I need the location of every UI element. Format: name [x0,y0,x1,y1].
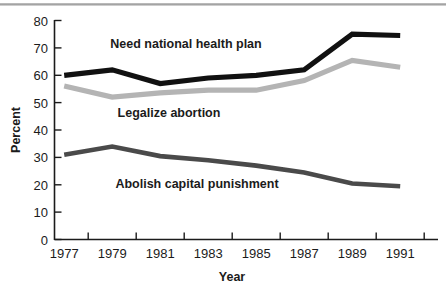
y-tick-label: 60 [34,68,48,83]
line-chart-figure: 80 70 60 50 40 30 20 10 0 1977 1979 1981… [0,0,446,295]
x-tick-label: 1985 [242,246,271,261]
y-tick-label: 20 [34,178,48,193]
y-tick-label: 0 [41,233,48,248]
y-tick-label: 10 [34,205,48,220]
series-annotation-capital-punishment: Abolish capital punishment [115,177,279,191]
x-tick-label: 1991 [386,246,415,261]
y-axis-tick-labels: 80 70 60 50 40 30 20 10 0 [34,14,48,248]
chart-plot-area: 80 70 60 50 40 30 20 10 0 1977 1979 1981… [0,0,446,295]
y-tick-label: 80 [34,14,48,29]
x-axis-title: Year [219,270,246,284]
y-tick-label: 40 [34,123,48,138]
y-axis-title: Percent [9,106,23,153]
x-tick-label: 1981 [146,246,175,261]
x-tick-label: 1983 [194,246,223,261]
x-tick-label: 1977 [50,246,79,261]
x-tick-label: 1979 [98,246,127,261]
x-tick-label: 1989 [338,246,367,261]
y-tick-label: 30 [34,150,48,165]
series-annotation-legalize-abortion: Legalize abortion [118,106,221,120]
y-axis-ticks [55,21,62,240]
x-axis-tick-labels: 1977 1979 1981 1983 1985 1987 1989 1991 [50,246,415,261]
y-tick-label: 50 [34,96,48,111]
series-annotation-health-plan: Need national health plan [110,37,261,51]
y-tick-label: 70 [34,41,48,56]
x-tick-label: 1987 [290,246,319,261]
x-axis-ticks [88,233,424,240]
